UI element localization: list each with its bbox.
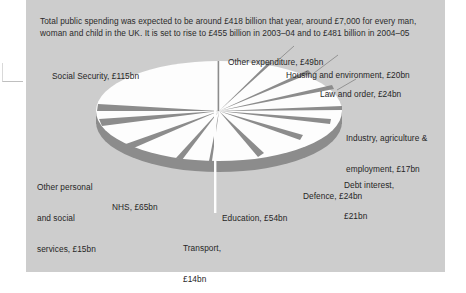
- pie-chart: Social Security, £115bn Other expenditur…: [26, 0, 445, 272]
- callout-debt-line1: Debt interest,: [344, 180, 394, 190]
- callout-debt-line2: £21bn: [344, 211, 394, 221]
- callout-opss-line2: and social: [37, 213, 96, 223]
- callout-industry-line1: Industry, agriculture &: [346, 133, 427, 143]
- crop-mark: [2, 63, 23, 82]
- callout-opss-line1: Other personal: [37, 182, 96, 192]
- callout-nhs: NHS, £65bn: [112, 202, 158, 212]
- callout-law-and-order: Law and order, £24bn: [320, 89, 401, 99]
- figure-panel: Total public spending was expected to be…: [26, 0, 445, 272]
- callout-defence: Defence, £24bn: [303, 191, 362, 201]
- callout-education: Education, £54bn: [222, 213, 287, 223]
- callout-other-personal-social-services: Other personal and social services, £15b…: [37, 161, 96, 275]
- callout-transport-line1: Transport,: [183, 243, 221, 253]
- callout-transport-line2: £14bn: [183, 274, 221, 284]
- callout-housing-environment: Housing and environment, £20bn: [286, 70, 410, 80]
- callout-opss-line3: services, £15bn: [37, 244, 96, 254]
- callout-social-security: Social Security, £115bn: [52, 71, 139, 81]
- callout-other-expenditure: Other expenditure, £49bn: [228, 57, 323, 67]
- callout-transport: Transport, £14bn: [183, 222, 221, 293]
